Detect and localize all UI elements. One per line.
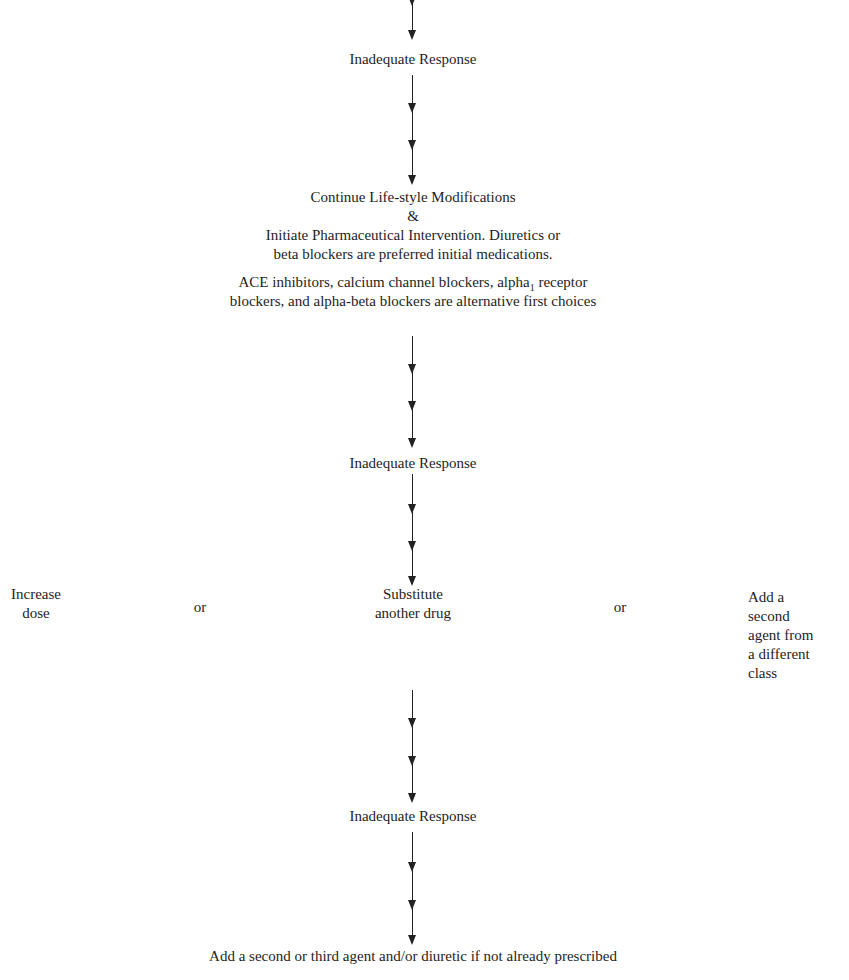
substitute-line-1: Substitute [0,585,826,604]
inadequate-response-3: Inadequate Response [0,807,826,826]
flow-arrow [412,474,414,586]
inadequate-response-1: Inadequate Response [0,50,826,69]
ampersand-text: & [0,207,826,226]
add-agent-line-5: class [748,664,848,683]
alternatives-line-2: blockers, and alpha-beta blockers are al… [0,292,826,311]
alternatives-line-1: ACE inhibitors, calcium channel blockers… [0,273,826,292]
initiate-intervention-text: Initiate Pharmaceutical Intervention. Di… [0,226,826,245]
alternatives-text-a: ACE inhibitors, calcium channel blockers… [238,274,529,290]
flow-arrow [412,832,414,944]
flow-arrow [412,0,414,40]
substitute-line-2: another drug [0,604,826,623]
or-right-text: or [610,598,630,617]
preferred-medications-text: beta blockers are preferred initial medi… [0,245,826,264]
inadequate-response-2: Inadequate Response [0,454,826,473]
alternatives-text-b: receptor [535,274,588,290]
substitute-drug-option: Substitute another drug [0,585,826,623]
flow-arrow [412,336,414,448]
continue-lifestyle-text: Continue Life-style Modifications [0,188,826,207]
add-agent-line-4: a different [748,645,848,664]
final-step-text: Add a second or third agent and/or diure… [0,947,826,966]
add-agent-line-1: Add a [748,588,848,607]
add-second-agent-option: Add a second agent from a different clas… [748,588,848,683]
add-agent-line-3: agent from [748,626,848,645]
add-agent-line-2: second [748,607,848,626]
flow-arrow [412,75,414,185]
flow-arrow [412,690,414,802]
